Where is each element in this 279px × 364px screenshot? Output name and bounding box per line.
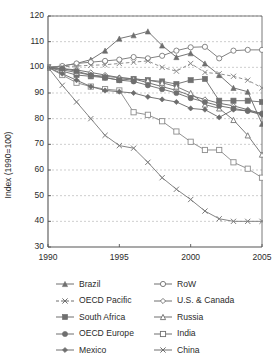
- data-point: [245, 98, 250, 103]
- data-point: [188, 51, 193, 56]
- legend-item-row[interactable]: RoW: [153, 276, 270, 293]
- legend-item-mexico[interactable]: Mexico: [55, 342, 153, 359]
- legend-marker-filled-circle-icon: [55, 328, 75, 340]
- data-point: [231, 160, 236, 165]
- data-point: [160, 97, 165, 102]
- data-point: [117, 78, 122, 83]
- data-point: [174, 90, 179, 95]
- series-line: [48, 67, 262, 117]
- x-tick-label: 1990: [32, 252, 64, 262]
- data-point: [131, 54, 136, 59]
- legend-label: Brazil: [79, 280, 101, 289]
- legend-item-oecd-europe[interactable]: OECD Europe: [55, 326, 153, 343]
- data-point: [245, 47, 250, 52]
- data-point: [160, 53, 165, 58]
- data-point: [231, 74, 236, 79]
- x-tick-label: 1995: [103, 252, 135, 262]
- y-tick-label: 100: [20, 61, 44, 71]
- data-point: [174, 48, 179, 53]
- legend-marker-open-diamond-icon: [153, 295, 173, 307]
- data-point: [217, 56, 222, 61]
- y-axis-title: Index (1990=100): [3, 105, 13, 225]
- data-point: [160, 87, 165, 92]
- legend-marker-x-icon: [153, 344, 173, 356]
- data-point: [88, 72, 93, 77]
- data-point: [74, 99, 79, 104]
- data-point: [145, 56, 150, 61]
- chart-legend: BrazilRoWOECD PacificU.S. & CanadaSouth …: [55, 276, 270, 359]
- data-point: [60, 66, 65, 71]
- legend-item-india[interactable]: India: [153, 326, 270, 343]
- data-point: [131, 90, 136, 95]
- y-tick-label: 40: [20, 215, 44, 225]
- data-point: [131, 79, 136, 84]
- y-tick-label: 80: [20, 113, 44, 123]
- data-point: [60, 83, 65, 88]
- data-point: [102, 133, 107, 138]
- data-point: [259, 47, 264, 52]
- legend-marker-filled-triangle-icon: [55, 278, 75, 290]
- data-point: [188, 96, 193, 101]
- legend-label: RoW: [177, 280, 196, 289]
- data-point: [202, 107, 207, 112]
- data-point: [245, 166, 250, 171]
- data-point: [188, 106, 193, 111]
- data-point: [231, 98, 236, 103]
- data-point: [188, 139, 193, 144]
- legend-marker-open-triangle-icon: [153, 311, 173, 323]
- legend-marker-open-circle-icon: [153, 278, 173, 290]
- y-tick-label: 70: [20, 138, 44, 148]
- data-point: [202, 147, 207, 152]
- data-point: [188, 78, 193, 83]
- data-point: [160, 175, 165, 180]
- y-tick-label: 90: [20, 87, 44, 97]
- data-point: [174, 129, 179, 134]
- legend-marker-filled-square-icon: [55, 311, 75, 323]
- legend-marker-filled-diamond-icon: [55, 344, 75, 356]
- data-point: [202, 208, 207, 213]
- data-point: [174, 187, 179, 192]
- legend-marker-open-square-icon: [153, 328, 173, 340]
- series-line: [48, 67, 262, 177]
- data-point: [145, 94, 150, 99]
- data-point: [188, 45, 193, 50]
- legend-marker-x-icon: [55, 295, 75, 307]
- y-tick-label: 30: [20, 241, 44, 251]
- data-point: [217, 147, 222, 152]
- legend-item-china[interactable]: China: [153, 342, 270, 359]
- series-line: [48, 31, 262, 123]
- legend-label: China: [177, 346, 199, 355]
- data-point: [131, 60, 136, 65]
- x-tick-label: 2005: [246, 252, 278, 262]
- data-point: [217, 115, 222, 120]
- y-tick-label: 50: [20, 190, 44, 200]
- data-point: [259, 175, 264, 180]
- legend-item-south-africa[interactable]: South Africa: [55, 309, 153, 326]
- data-point: [217, 98, 222, 103]
- data-point: [160, 119, 165, 124]
- legend-item-oecd-pacific[interactable]: OECD Pacific: [55, 293, 153, 310]
- data-point: [131, 110, 136, 115]
- y-tick-label: 110: [20, 36, 44, 46]
- data-point: [145, 112, 150, 117]
- legend-item-u-s-canada[interactable]: U.S. & Canada: [153, 293, 270, 310]
- data-point: [259, 121, 264, 126]
- data-point: [188, 61, 193, 66]
- y-tick-label: 60: [20, 164, 44, 174]
- data-point: [74, 61, 79, 66]
- legend-label: Russia: [177, 313, 203, 322]
- legend-label: South Africa: [79, 313, 125, 322]
- x-tick-label: 2000: [175, 252, 207, 262]
- legend-item-brazil[interactable]: Brazil: [55, 276, 153, 293]
- data-point: [74, 69, 79, 74]
- legend-label: OECD Europe: [79, 329, 134, 338]
- data-point: [145, 83, 150, 88]
- data-point: [188, 197, 193, 202]
- legend-label: Mexico: [79, 346, 106, 355]
- series-line: [48, 47, 262, 68]
- data-point: [231, 48, 236, 53]
- data-point: [259, 99, 264, 104]
- legend-label: India: [177, 329, 196, 338]
- legend-label: U.S. & Canada: [177, 296, 234, 305]
- legend-item-russia[interactable]: Russia: [153, 309, 270, 326]
